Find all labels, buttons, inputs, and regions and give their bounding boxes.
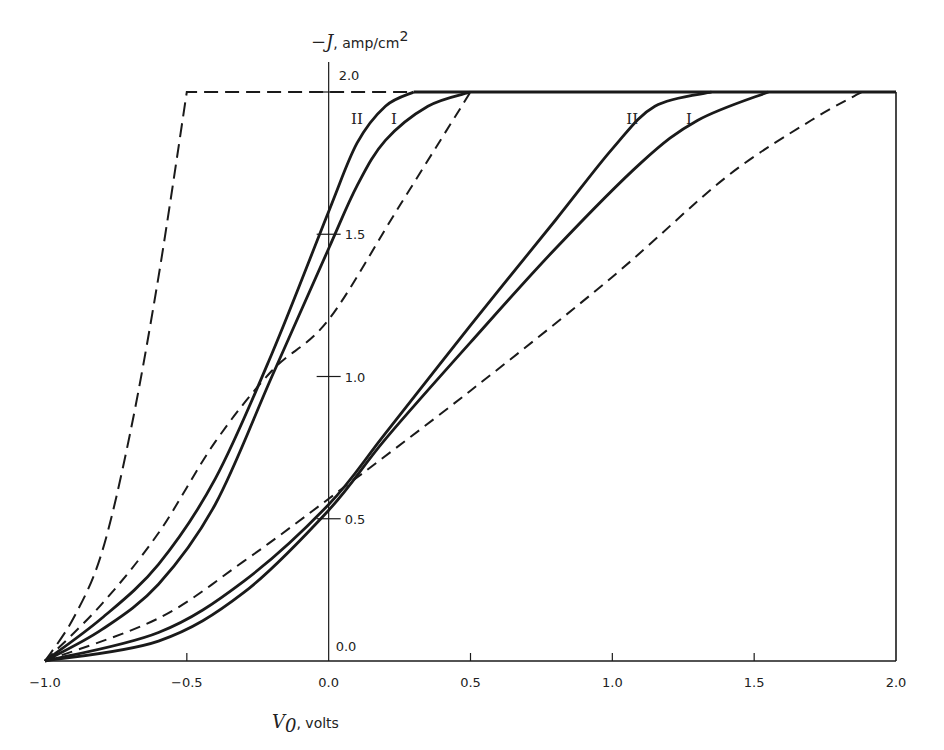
curve-label-II: II xyxy=(351,110,363,128)
curve-I-left xyxy=(45,92,471,661)
labels: −J, amp/cm2 V0, volts −1.0−0.50.00.51.01… xyxy=(29,28,906,736)
x-axis-title: V0, volts xyxy=(272,711,339,736)
curves xyxy=(45,92,896,661)
chart: −J, amp/cm2 V0, volts −1.0−0.50.00.51.01… xyxy=(0,0,944,750)
x-tick-label: 1.5 xyxy=(744,675,765,690)
x-tick-label: −0.5 xyxy=(171,675,203,690)
curve-label-II: II xyxy=(626,110,638,128)
y-tick-label: 2.0 xyxy=(339,68,360,83)
curve-label-I: I xyxy=(686,110,692,128)
y-tick-label: 1.5 xyxy=(345,227,366,242)
y-tick-label: 1.0 xyxy=(345,370,366,385)
x-tick-label: −1.0 xyxy=(29,675,61,690)
curve-label-I: I xyxy=(391,110,397,128)
x-tick-label: 0.5 xyxy=(460,675,481,690)
curve-II-right xyxy=(45,92,712,661)
dashed-curve-left xyxy=(45,92,471,661)
curve-I-right xyxy=(45,92,768,661)
y-tick-label: 0.5 xyxy=(345,512,366,527)
x-tick-label: 0.0 xyxy=(318,675,339,690)
axes xyxy=(45,62,896,661)
x-tick-label: 2.0 xyxy=(886,675,907,690)
x-tick-label: 1.0 xyxy=(602,675,623,690)
y-axis-title: −J, amp/cm2 xyxy=(311,28,408,52)
y-tick-label: 0.0 xyxy=(336,639,357,654)
